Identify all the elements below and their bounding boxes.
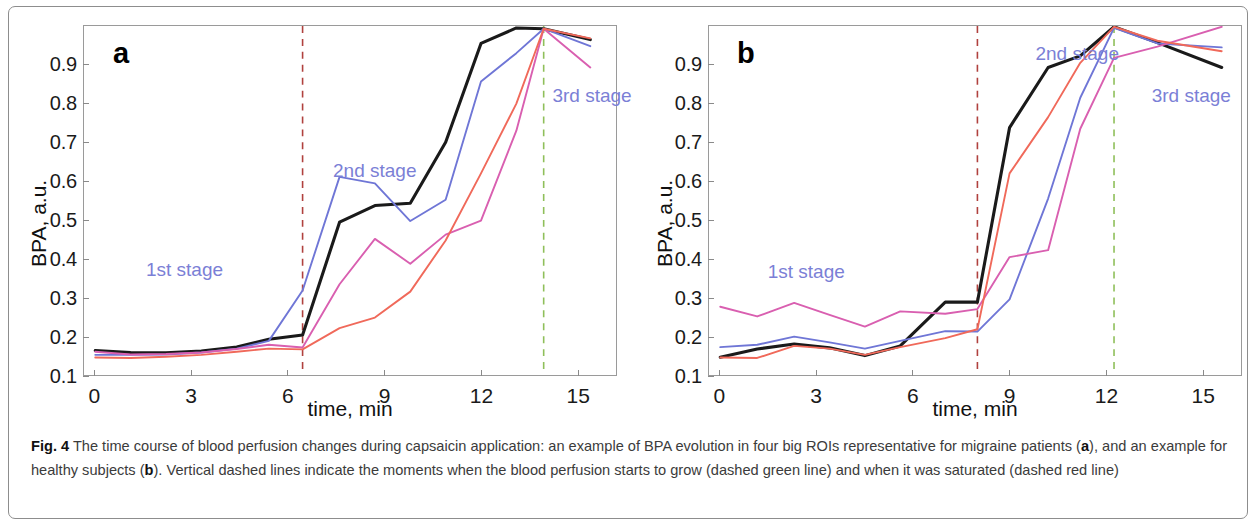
- x-tick-label: 9: [365, 384, 405, 408]
- y-tick-label: 0.1: [21, 365, 77, 388]
- series-line: [95, 29, 590, 355]
- y-tick-label: 0.2: [646, 326, 702, 349]
- x-tick-mark: [719, 370, 720, 376]
- chart-panel-a: a BPA, a.u. time, min 0.10.20.30.40.50.6…: [9, 7, 629, 425]
- y-tick-label: 0.7: [21, 131, 77, 154]
- y-tick-mark: [83, 142, 89, 143]
- y-tick-mark: [83, 298, 89, 299]
- y-tick-label: 0.9: [646, 53, 702, 76]
- y-tick-label: 0.3: [21, 287, 77, 310]
- y-tick-label: 0.5: [646, 209, 702, 232]
- y-tick-label: 0.8: [21, 92, 77, 115]
- x-tick-label: 6: [268, 384, 308, 408]
- figure-label: Fig. 4: [31, 438, 69, 454]
- y-tick-label: 0.6: [646, 170, 702, 193]
- x-tick-label: 15: [558, 384, 598, 408]
- y-tick-label: 0.3: [646, 287, 702, 310]
- stage-annotation-label: 2nd stage: [1035, 43, 1118, 65]
- plot-area-a: [83, 25, 617, 376]
- caption-ref-a: a: [1081, 438, 1089, 454]
- x-tick-label: 0: [74, 384, 114, 408]
- x-tick-label: 15: [1183, 384, 1223, 408]
- x-tick-mark: [1106, 370, 1107, 376]
- x-tick-label: 6: [893, 384, 933, 408]
- panel-letter-b: b: [737, 37, 755, 70]
- y-tick-mark: [83, 220, 89, 221]
- series-line: [95, 29, 590, 355]
- caption-part-1: The time course of blood perfusion chang…: [69, 438, 1081, 454]
- x-tick-mark: [912, 370, 913, 376]
- y-tick-mark: [708, 376, 714, 377]
- line-chart-a: [84, 26, 616, 375]
- y-tick-label: 0.4: [646, 248, 702, 271]
- x-tick-label: 12: [461, 384, 501, 408]
- x-tick-mark: [578, 370, 579, 376]
- stage-annotation-label: 3rd stage: [552, 85, 631, 107]
- y-tick-mark: [83, 181, 89, 182]
- y-tick-mark: [708, 298, 714, 299]
- caption-ref-b: b: [145, 462, 154, 478]
- y-tick-mark: [83, 337, 89, 338]
- chart-panel-b: b BPA, a.u. time, min 0.10.20.30.40.50.6…: [629, 7, 1249, 425]
- y-tick-mark: [708, 337, 714, 338]
- y-tick-mark: [708, 220, 714, 221]
- x-tick-mark: [384, 370, 385, 376]
- stage-annotation-label: 3rd stage: [1152, 85, 1231, 107]
- x-tick-label: 12: [1086, 384, 1126, 408]
- x-tick-mark: [94, 370, 95, 376]
- series-line: [95, 29, 590, 358]
- panel-letter-a: a: [113, 37, 129, 70]
- y-tick-mark: [708, 181, 714, 182]
- x-tick-mark: [1009, 370, 1010, 376]
- y-tick-label: 0.2: [21, 326, 77, 349]
- stage-annotation-label: 1st stage: [768, 261, 845, 283]
- x-tick-label: 3: [171, 384, 211, 408]
- figure-panels: a BPA, a.u. time, min 0.10.20.30.40.50.6…: [9, 7, 1249, 425]
- series-line: [720, 27, 1221, 358]
- y-tick-mark: [83, 376, 89, 377]
- y-tick-label: 0.8: [646, 92, 702, 115]
- y-tick-label: 0.4: [21, 248, 77, 271]
- stage-annotation-label: 2nd stage: [333, 160, 416, 182]
- y-tick-label: 0.9: [21, 53, 77, 76]
- x-tick-mark: [1203, 370, 1204, 376]
- y-tick-mark: [83, 64, 89, 65]
- series-line: [720, 28, 1221, 349]
- x-tick-mark: [287, 370, 288, 376]
- x-tick-label: 0: [699, 384, 739, 408]
- line-chart-b: [709, 26, 1241, 375]
- y-tick-label: 0.7: [646, 131, 702, 154]
- y-tick-mark: [83, 259, 89, 260]
- x-tick-mark: [816, 370, 817, 376]
- x-tick-mark: [481, 370, 482, 376]
- y-tick-mark: [708, 64, 714, 65]
- y-tick-label: 0.6: [21, 170, 77, 193]
- caption-part-3: ). Vertical dashed lines indicate the mo…: [154, 462, 1119, 478]
- x-tick-mark: [191, 370, 192, 376]
- figure-container: a BPA, a.u. time, min 0.10.20.30.40.50.6…: [8, 6, 1248, 519]
- series-line: [95, 28, 590, 353]
- x-tick-label: 3: [796, 384, 836, 408]
- series-line: [720, 27, 1221, 357]
- y-tick-mark: [708, 103, 714, 104]
- y-tick-label: 0.5: [21, 209, 77, 232]
- stage-annotation-label: 1st stage: [146, 259, 223, 281]
- y-tick-mark: [708, 259, 714, 260]
- plot-area-b: [708, 25, 1242, 376]
- y-tick-label: 0.1: [646, 365, 702, 388]
- y-tick-mark: [708, 142, 714, 143]
- figure-caption: Fig. 4 The time course of blood perfusio…: [31, 435, 1231, 482]
- x-tick-label: 9: [990, 384, 1030, 408]
- y-tick-mark: [83, 103, 89, 104]
